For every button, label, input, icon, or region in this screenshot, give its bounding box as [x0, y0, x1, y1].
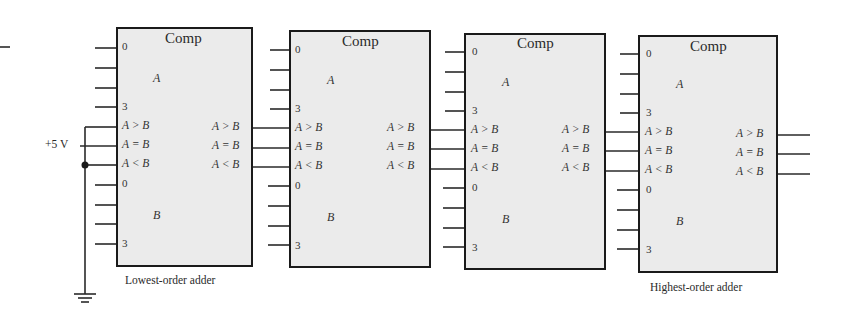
comparator-2-out-eq: A = B — [387, 140, 414, 152]
comparator-4-in-lt: A < B — [645, 163, 672, 175]
comparator-1-in-gt: A > B — [122, 119, 149, 131]
comparator-3-out-eq: A = B — [562, 142, 589, 154]
caption-highest-order: Highest-order adder — [650, 281, 742, 293]
comparator-1-in-lt: A < B — [122, 157, 149, 169]
comparator-1-out-gt: A > B — [212, 120, 239, 132]
caption-lowest-order: Lowest-order adder — [125, 274, 215, 286]
comparator-2-b-bus: B — [327, 210, 334, 225]
comparator-3-b3-label: 3 — [472, 241, 478, 253]
comparator-4-b-bus: B — [676, 214, 683, 229]
comparator-4-b3-label: 3 — [646, 243, 652, 255]
comparator-3-b-bus: B — [502, 212, 509, 227]
supply-label: +5 V — [45, 138, 68, 150]
comparator-2-out-lt: A < B — [387, 159, 414, 171]
comparator-1-a-bus: A — [153, 71, 160, 86]
cascaded-comparator-diagram: Comp 0 3 A A > B A = B A < B 0 3 B A > B… — [0, 0, 848, 316]
comparator-3-in-eq: A = B — [471, 142, 498, 154]
comparator-2-a3-label: 3 — [295, 102, 301, 114]
comparator-1-out-eq: A = B — [212, 139, 239, 151]
comparator-1-a3-label: 3 — [122, 100, 128, 112]
comparator-4-out-eq: A = B — [736, 146, 763, 158]
comparator-4-a0-label: 0 — [646, 47, 652, 59]
comparator-3-in-lt: A < B — [471, 161, 498, 173]
comparator-3-title: Comp — [517, 35, 554, 52]
comparator-4-out-gt: A > B — [736, 127, 763, 139]
comparator-4-out-lt: A < B — [736, 165, 763, 177]
comparator-1-b-bus: B — [153, 208, 160, 223]
comparator-1-out-lt: A < B — [212, 158, 239, 170]
comparator-4-title: Comp — [690, 38, 727, 55]
comparator-1-a0-label: 0 — [122, 40, 128, 52]
comparator-3-out-lt: A < B — [562, 161, 589, 173]
comparator-2-in-lt: A < B — [295, 159, 322, 171]
comparator-4-b0-label: 0 — [646, 183, 652, 195]
comparator-2-a-bus: A — [327, 73, 334, 88]
comparator-2-b0-label: 0 — [295, 179, 301, 191]
comparator-3-out-gt: A > B — [562, 123, 589, 135]
junction-dot — [82, 162, 89, 169]
comparator-1-in-eq: A = B — [122, 138, 149, 150]
comparator-4-in-gt: A > B — [645, 125, 672, 137]
comparator-4-in-eq: A = B — [645, 144, 672, 156]
comparator-2-in-gt: A > B — [295, 121, 322, 133]
comparator-2-in-eq: A = B — [295, 140, 322, 152]
comparator-3-b0-label: 0 — [472, 181, 478, 193]
comparator-3-a-bus: A — [502, 75, 509, 90]
comparator-3-a0-label: 0 — [472, 45, 478, 57]
comparator-1-title: Comp — [165, 30, 202, 47]
comparator-4-a-bus: A — [676, 77, 683, 92]
comparator-4-a3-label: 3 — [646, 106, 652, 118]
comparator-2-title: Comp — [342, 33, 379, 50]
comparator-2-b3-label: 3 — [295, 239, 301, 251]
comparator-1-b0-label: 0 — [122, 177, 128, 189]
comparator-3-a3-label: 3 — [472, 104, 478, 116]
comparator-2-out-gt: A > B — [387, 121, 414, 133]
comparator-1-b3-label: 3 — [122, 237, 128, 249]
comparator-2-a0-label: 0 — [295, 43, 301, 55]
comparator-3-in-gt: A > B — [471, 123, 498, 135]
